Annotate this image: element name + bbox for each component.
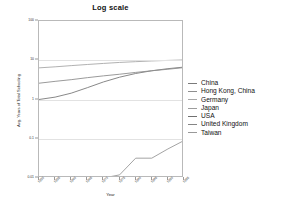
gridline [39,100,182,101]
legend-swatch [188,124,197,125]
legend-item[interactable]: USA [188,112,255,120]
chart-figure: Log scale 1001010.10.01 Avg. Years of To… [0,0,283,206]
legend-label: Germany [201,96,228,104]
legend-label: China [201,79,218,87]
legend-item[interactable]: Taiwan [188,129,255,137]
y-axis-tick-label: 0.01 [27,175,34,179]
legend-label: Hong Kong, China [201,87,255,95]
legend-swatch [188,91,197,92]
legend-swatch [188,108,197,109]
series-line [39,141,183,177]
legend-item[interactable]: United Kingdom [188,120,255,128]
x-axis-title: Year [38,192,183,197]
chart-legend: ChinaHong Kong, ChinaGermanyJapanUSAUnit… [188,79,255,137]
legend-item[interactable]: Germany [188,96,255,104]
legend-item[interactable]: Hong Kong, China [188,87,255,95]
y-axis-title: Avg. Years of Total Schooling [16,51,21,151]
legend-label: Japan [201,104,219,112]
legend-label: United Kingdom [201,120,248,128]
y-axis-tick-label: 1 [32,97,34,101]
gridline [39,60,182,61]
y-axis-tick-label: 10 [30,57,34,61]
chart-title: Log scale [38,3,183,12]
gridline [39,139,182,140]
legend-item[interactable]: China [188,79,255,87]
y-axis-tick-label: 0.1 [29,136,34,140]
legend-swatch [188,132,197,133]
series-line [39,67,183,99]
legend-label: Taiwan [201,129,222,137]
legend-swatch [188,116,197,117]
legend-swatch [188,99,197,100]
legend-item[interactable]: Japan [188,104,255,112]
series-line [39,68,183,84]
y-axis-tick-label: 100 [28,18,34,22]
plot-area [38,20,183,177]
legend-label: USA [201,112,215,120]
legend-swatch [188,83,197,84]
